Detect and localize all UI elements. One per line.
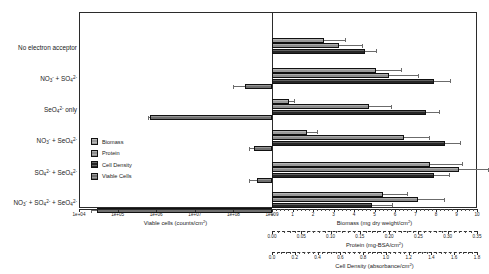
error-bar-biomass-group1 — [376, 70, 403, 71]
swatch-hatch — [92, 174, 97, 179]
error-cap — [439, 110, 440, 114]
legend-swatch-biomass — [91, 138, 98, 145]
bar-biomass-group3 — [272, 130, 307, 135]
axis-minor-tick — [377, 252, 378, 254]
bar-viable-cells-group3 — [254, 146, 272, 151]
bar-protein-group2 — [272, 104, 369, 109]
axis-minor-tick — [424, 231, 425, 233]
axis-tick — [457, 209, 458, 212]
error-bar-protein-group4 — [459, 169, 488, 170]
axis-minor-tick — [430, 231, 431, 233]
axis-tick — [79, 209, 80, 212]
error-cap — [376, 49, 377, 53]
bar-cell-density-group5 — [272, 203, 372, 208]
bar-hatch — [273, 74, 388, 77]
axis-tick-label: 0.25 — [414, 234, 423, 239]
bar-protein-group0 — [272, 43, 339, 48]
axis-minor-tick — [411, 209, 412, 211]
axis-minor-tick — [280, 209, 281, 211]
axis-tick-label: 0.10 — [326, 234, 335, 239]
error-bar-viable-cells-group2 — [148, 117, 151, 118]
error-cap — [362, 44, 363, 48]
legend-swatch-cell-density — [91, 161, 98, 168]
bar-cell-density-group2 — [272, 110, 426, 115]
axis-minor-tick — [401, 231, 402, 233]
axis-minor-tick — [307, 231, 308, 233]
bar-hatch — [273, 142, 444, 145]
axis-line — [272, 231, 477, 232]
error-cap — [249, 147, 250, 151]
axis-minor-tick — [329, 209, 330, 211]
axis-minor-tick — [309, 209, 310, 211]
error-bar-biomass-group0 — [324, 40, 346, 41]
bar-cell-density-group1 — [272, 79, 434, 84]
category-label-2: SeO42- only — [0, 105, 77, 115]
axis-tick-label: 8 — [435, 212, 438, 217]
axis-tick-label: 0.0 — [269, 255, 275, 260]
axis-minor-tick — [325, 231, 326, 233]
bar-hatch — [273, 44, 338, 47]
axis-minor-tick — [459, 231, 460, 233]
legend-item-cell-density[interactable]: Cell Density — [91, 159, 132, 171]
bar-hatch — [273, 69, 375, 72]
axis-minor-tick — [348, 231, 349, 233]
axis-minor-tick — [362, 209, 363, 211]
axis-minor-tick — [286, 252, 287, 254]
axis-minor-tick — [345, 252, 346, 254]
axis-minor-tick — [463, 252, 464, 254]
axis-tick — [334, 209, 335, 212]
legend-item-protein[interactable]: Protein — [91, 148, 132, 160]
bar-hatch — [273, 198, 417, 201]
legend-item-biomass[interactable]: Biomass — [91, 136, 132, 148]
axis-minor-tick — [471, 231, 472, 233]
error-cap — [429, 136, 430, 140]
bar-viable-cells-group1 — [245, 84, 272, 89]
axis-tick — [395, 209, 396, 212]
axis-minor-tick — [391, 209, 392, 211]
axis-tick — [272, 209, 273, 212]
bar-hatch — [273, 204, 371, 207]
axis-minor-tick — [354, 231, 355, 233]
error-cap — [460, 141, 461, 145]
axis-tick — [409, 252, 410, 255]
axis-minor-tick — [301, 209, 302, 211]
axis-minor-tick — [304, 252, 305, 254]
error-bar-biomass-group5 — [383, 194, 408, 195]
axis-minor-tick — [395, 252, 396, 254]
axis-tick — [195, 209, 196, 212]
axis-tick — [436, 209, 437, 212]
bar-hatch — [273, 174, 433, 177]
axis-tick — [233, 209, 234, 212]
error-bar-biomass-group4 — [430, 164, 463, 165]
error-bar-cell-density-group5 — [372, 205, 393, 206]
axis-minor-tick — [321, 209, 322, 211]
axis-tick — [354, 209, 355, 212]
category-label-0: No electron acceptor — [0, 44, 77, 51]
axis-tick-label: 1e+05 — [111, 212, 124, 217]
axis-tick — [431, 252, 432, 255]
axis-tick — [363, 252, 364, 255]
axis-line — [79, 209, 272, 210]
axis-minor-tick — [313, 231, 314, 233]
axis-tick — [448, 231, 449, 234]
axis-minor-tick — [422, 252, 423, 254]
bar-hatch — [151, 116, 271, 119]
axis-minor-tick — [420, 209, 421, 211]
error-bar-viable-cells-group3 — [249, 148, 255, 149]
axis-tick-label: 5 — [373, 212, 376, 217]
axis-minor-tick — [436, 231, 437, 233]
axis-tick — [454, 252, 455, 255]
axis-tick — [118, 209, 119, 212]
axis-minor-tick — [278, 231, 279, 233]
axis-tick — [386, 252, 387, 255]
axis-minor-tick — [404, 252, 405, 254]
axis-tick — [477, 209, 478, 212]
bar-biomass-group2 — [272, 99, 289, 104]
legend-item-viable-cells[interactable]: Viable Cells — [91, 171, 132, 183]
axis-tick-label: 0.30 — [443, 234, 452, 239]
error-bar-protein-group5 — [418, 199, 444, 200]
error-cap — [249, 179, 250, 183]
axis-minor-tick — [366, 231, 367, 233]
axis-tick-label: 0.00 — [268, 234, 277, 239]
bar-hatch — [273, 80, 433, 83]
